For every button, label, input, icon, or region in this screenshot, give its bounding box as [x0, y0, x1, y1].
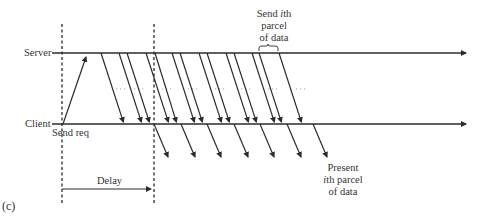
parcel-present-arrow — [287, 124, 301, 157]
present-line3: of data — [316, 186, 370, 198]
delay-label: Delay — [97, 175, 122, 187]
server-to-client-arrows — [101, 53, 301, 122]
parcel-present-arrow — [207, 124, 221, 157]
parcel-present-arrow — [234, 124, 248, 157]
send-parcel-line2: parcel — [250, 20, 298, 32]
th-text: th — [283, 8, 291, 19]
send-parcel-label: Send ith parcel of data — [250, 8, 298, 44]
parcel-send-arrow — [252, 53, 274, 122]
panel-label: (c) — [2, 200, 15, 212]
parcel-brace — [259, 44, 278, 51]
client-label: Client — [25, 118, 51, 130]
server-label: Server — [24, 47, 51, 59]
send-text: Send — [257, 8, 281, 19]
present-line1: Present — [316, 162, 370, 174]
parcel-present-arrow — [260, 124, 274, 157]
parcel-present-arrow — [154, 124, 168, 157]
parcel-send-arrow — [101, 53, 123, 122]
client-to-present-arrows — [154, 124, 327, 157]
present-line2: ith parcel — [316, 174, 370, 186]
send-request-arrow — [63, 57, 86, 124]
timing-diagram — [0, 0, 487, 219]
parcel-send-arrow — [259, 53, 281, 122]
parcel-send-arrow — [155, 53, 176, 122]
send-parcel-line1: Send ith — [250, 8, 298, 20]
parcel-present-arrow — [181, 124, 195, 157]
parcel-present-arrow — [313, 124, 327, 157]
parcel-send-arrow — [279, 53, 301, 122]
present-parcel-label: Present ith parcel of data — [316, 162, 370, 198]
send-parcel-line3: of data — [250, 32, 298, 44]
th-parcel-text: th parcel — [326, 174, 362, 185]
send-req-label: Send req — [52, 127, 89, 139]
parcel-send-arrow — [146, 53, 168, 122]
